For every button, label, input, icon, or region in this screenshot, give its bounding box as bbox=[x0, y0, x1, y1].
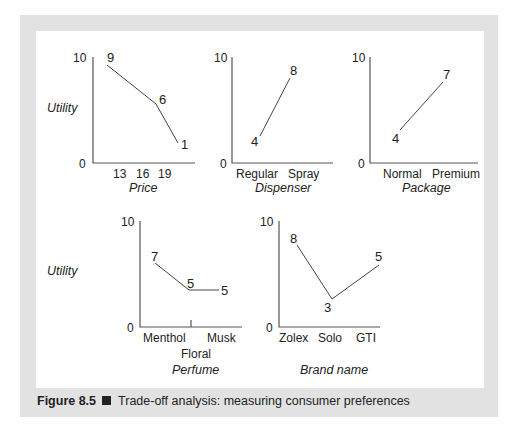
y-tick-min: 0 bbox=[127, 321, 134, 335]
x-axis-title: Perfume bbox=[172, 363, 219, 377]
figure-number: Figure 8.5 bbox=[37, 394, 96, 408]
data-label: 6 bbox=[159, 92, 166, 107]
y-tick-max: 10 bbox=[121, 215, 135, 229]
data-label: 9 bbox=[107, 50, 114, 65]
x-axis-title: Package bbox=[402, 181, 451, 195]
x-tick: Regular bbox=[236, 167, 278, 181]
brand-line bbox=[297, 245, 379, 299]
x-tick: Spray bbox=[288, 167, 319, 181]
x-tick: 16 bbox=[136, 167, 150, 181]
data-label: 4 bbox=[251, 134, 258, 149]
price-line bbox=[107, 65, 178, 143]
figure-caption: Figure 8.5Trade-off analysis: measuring … bbox=[37, 394, 410, 408]
square-bullet-icon bbox=[102, 396, 111, 405]
x-tick: 13 bbox=[113, 167, 127, 181]
data-label: 7 bbox=[151, 249, 158, 264]
x-tick: Solo bbox=[318, 331, 342, 345]
x-tick: GTI bbox=[356, 331, 376, 345]
y-tick-max: 10 bbox=[352, 51, 366, 65]
x-axis-title: Price bbox=[129, 181, 158, 195]
data-label: 8 bbox=[290, 231, 297, 246]
y-tick-max: 10 bbox=[73, 51, 87, 65]
x-tick: Floral bbox=[181, 347, 211, 361]
x-tick: Zolex bbox=[279, 331, 308, 345]
data-label: 4 bbox=[392, 131, 399, 146]
data-label: 5 bbox=[221, 283, 228, 298]
data-label: 3 bbox=[324, 300, 331, 315]
data-label: 5 bbox=[187, 276, 194, 291]
x-tick: Normal bbox=[383, 167, 422, 181]
package-line bbox=[400, 82, 443, 130]
y-tick-min: 0 bbox=[220, 157, 227, 171]
dispenser-line bbox=[260, 78, 290, 136]
x-tick: Musk bbox=[207, 331, 237, 345]
data-label: 5 bbox=[375, 249, 382, 264]
y-tick-max: 10 bbox=[214, 51, 228, 65]
y-tick-min: 0 bbox=[266, 321, 273, 335]
data-label: 7 bbox=[443, 67, 450, 82]
x-axis-title: Dispenser bbox=[255, 181, 312, 195]
x-tick: 19 bbox=[158, 167, 172, 181]
data-label: 8 bbox=[290, 63, 297, 78]
y-tick-max: 10 bbox=[260, 215, 274, 229]
x-tick: Menthol bbox=[143, 331, 186, 345]
trade-off-charts: Utility Utility 10 0 9 6 1 13 16 19 Pric… bbox=[0, 0, 517, 425]
caption-text: Trade-off analysis: measuring consumer p… bbox=[118, 394, 410, 408]
y-tick-min: 0 bbox=[79, 157, 86, 171]
y-tick-min: 0 bbox=[358, 157, 365, 171]
y-axis-label-row2: Utility bbox=[47, 264, 78, 278]
data-label: 1 bbox=[181, 137, 188, 152]
x-tick: Premium bbox=[432, 167, 480, 181]
x-axis-title: Brand name bbox=[300, 363, 368, 377]
y-axis-label-row1: Utility bbox=[47, 101, 78, 115]
